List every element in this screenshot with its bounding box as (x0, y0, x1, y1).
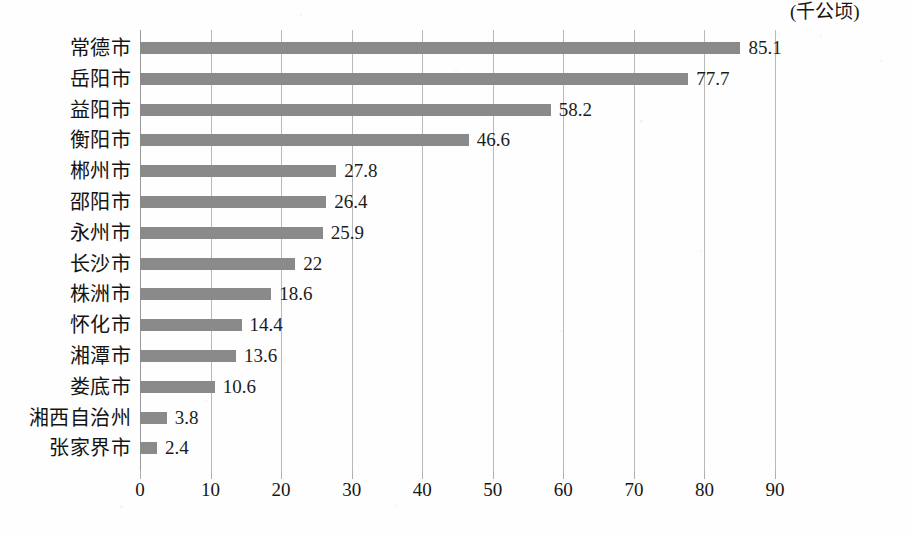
bar (140, 350, 236, 362)
bar (140, 381, 215, 393)
category-label: 永州市 (70, 221, 132, 245)
bar-value-label: 85.1 (748, 35, 781, 61)
bar (140, 165, 336, 177)
bar-value-label: 14.4 (250, 312, 283, 338)
bar (140, 104, 551, 116)
bar-value-label: 58.2 (559, 97, 592, 123)
x-tick-label: 20 (272, 478, 291, 502)
gridline-10 (211, 30, 212, 470)
bar-row: 77.7 (140, 73, 775, 85)
bar-row: 26.4 (140, 196, 775, 208)
scan-speckle (820, 35, 822, 37)
bar-value-label: 3.8 (175, 405, 199, 431)
category-label: 湘西自治州 (29, 406, 132, 430)
category-label: 湘潭市 (70, 344, 132, 368)
x-tick-label: 80 (695, 478, 714, 502)
bar-row: 14.4 (140, 319, 775, 331)
x-tick-label: 40 (413, 478, 432, 502)
bar (140, 442, 157, 454)
bar-row: 13.6 (140, 350, 775, 362)
x-tick-label: 30 (342, 478, 361, 502)
bar (140, 258, 295, 270)
gridline-30 (352, 30, 353, 470)
bar-value-label: 10.6 (223, 374, 256, 400)
bar-chart: 常德市岳阳市益阳市衡阳市郴州市邵阳市永州市长沙市株洲市怀化市湘潭市娄底市湘西自治… (0, 0, 910, 538)
x-tick-label: 10 (201, 478, 220, 502)
bar-row: 27.8 (140, 165, 775, 177)
bar-row: 85.1 (140, 42, 775, 54)
category-label: 娄底市 (70, 375, 132, 399)
bar-value-label: 2.4 (165, 435, 189, 461)
bar (140, 42, 740, 54)
bar (140, 412, 167, 424)
bar-row: 18.6 (140, 288, 775, 300)
gridline-50 (493, 30, 494, 470)
gridline-40 (422, 30, 423, 470)
category-axis: 常德市岳阳市益阳市衡阳市郴州市邵阳市永州市长沙市株洲市怀化市湘潭市娄底市湘西自治… (0, 30, 131, 470)
bar-row: 22 (140, 258, 775, 270)
bar-row: 2.4 (140, 442, 775, 454)
plot-area: 85.177.758.246.627.826.425.92218.614.413… (140, 30, 775, 470)
bar-value-label: 26.4 (334, 189, 367, 215)
x-tick-label: 70 (624, 478, 643, 502)
gridline-90 (775, 30, 776, 470)
bar (140, 288, 271, 300)
bar-row: 25.9 (140, 227, 775, 239)
x-axis: 0102030405060708090 (0, 478, 910, 508)
category-label: 怀化市 (70, 313, 132, 337)
category-label: 张家界市 (49, 436, 131, 460)
gridline-70 (634, 30, 635, 470)
bar-value-label: 22 (303, 251, 322, 277)
category-label: 长沙市 (70, 252, 132, 276)
bar-row: 58.2 (140, 104, 775, 116)
category-label: 岳阳市 (70, 67, 132, 91)
gridline-80 (704, 30, 705, 470)
category-label: 益阳市 (70, 98, 132, 122)
x-tick-label: 60 (554, 478, 573, 502)
x-axis-unit-label: (千公顷) (790, 0, 860, 24)
figure-caption (0, 524, 910, 538)
bar (140, 227, 323, 239)
category-label: 邵阳市 (70, 190, 132, 214)
bar-value-label: 27.8 (344, 158, 377, 184)
bar-row: 3.8 (140, 412, 775, 424)
x-tick-label: 50 (483, 478, 502, 502)
bar-row: 46.6 (140, 134, 775, 146)
bar (140, 134, 469, 146)
category-label: 郴州市 (70, 159, 132, 183)
bar-value-label: 46.6 (477, 127, 510, 153)
gridline-20 (281, 30, 282, 470)
bar-value-label: 18.6 (279, 281, 312, 307)
bar-row: 10.6 (140, 381, 775, 393)
bar-value-label: 25.9 (331, 220, 364, 246)
scan-speckle (880, 60, 882, 62)
category-label: 衡阳市 (70, 128, 132, 152)
x-tick-label: 0 (135, 478, 145, 502)
bar-value-label: 77.7 (696, 66, 729, 92)
x-tick-label: 90 (766, 478, 785, 502)
bar-value-label: 13.6 (244, 343, 277, 369)
category-label: 常德市 (70, 36, 132, 60)
category-label: 株洲市 (70, 282, 132, 306)
bar (140, 73, 688, 85)
bar (140, 319, 242, 331)
scan-speckle (300, 14, 302, 16)
bar (140, 196, 326, 208)
axis-line-zero (140, 30, 141, 470)
